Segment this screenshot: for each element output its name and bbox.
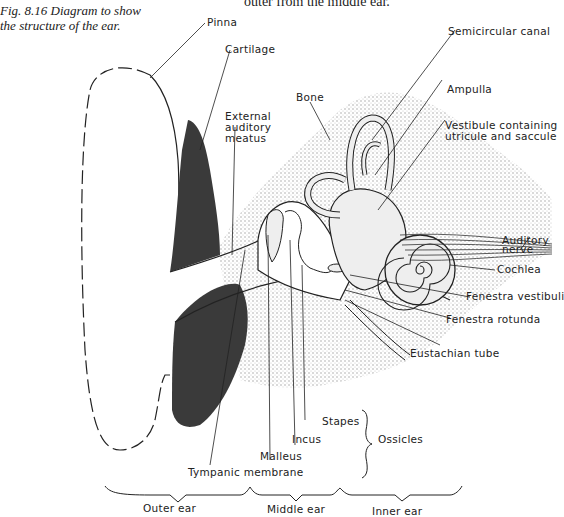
- label-stapes: Stapes: [322, 416, 360, 427]
- label-semicircular-canal: Semicircular canal: [448, 26, 550, 37]
- label-auditory-nerve-2: nerve: [502, 244, 534, 255]
- label-pinna: Pinna: [207, 17, 237, 28]
- cochlea: [385, 235, 455, 305]
- label-middle-ear: Middle ear: [267, 504, 325, 515]
- label-external-meatus-3: meatus: [225, 133, 266, 144]
- label-outer-ear: Outer ear: [143, 503, 196, 514]
- label-cochlea: Cochlea: [497, 264, 541, 275]
- label-malleus: Malleus: [260, 451, 302, 462]
- label-fenestra-vestibuli: Fenestra vestibuli: [466, 291, 564, 302]
- label-cartilage: Cartilage: [225, 44, 275, 55]
- cartilage-upper: [170, 120, 220, 272]
- label-tympanic-membrane: Tympanic membrane: [188, 467, 304, 478]
- label-inner-ear: Inner ear: [372, 506, 422, 517]
- label-eustachian-tube: Eustachian tube: [410, 348, 499, 359]
- label-fenestra-rotunda: Fenestra rotunda: [446, 314, 541, 325]
- label-incus: Incus: [292, 434, 321, 445]
- label-ossicles: Ossicles: [378, 434, 423, 445]
- pinna-outline: [82, 68, 170, 450]
- label-bone: Bone: [296, 92, 324, 103]
- label-ampulla: Ampulla: [447, 84, 492, 95]
- region-brace: [105, 486, 462, 502]
- ossicles-brace: [362, 410, 372, 478]
- label-vestibule-2: utricule and saccule: [445, 131, 557, 142]
